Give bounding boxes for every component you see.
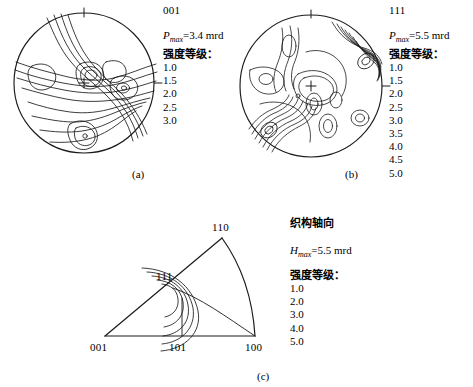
panel-c-hmax-sub: max [298,250,311,259]
panel-c-legend-title: 强度等级： [290,266,345,282]
ipf-label-110: 110 [212,221,229,233]
panel-a-pmax-symbol: P [163,29,170,41]
panel-c-hmax-symbol: H [290,244,298,256]
level-value: 1.0 [163,61,177,74]
ipf-label-111: 111 [156,270,173,282]
level-value: 3.0 [389,114,403,127]
center-cross-b [306,81,316,91]
ipf-label-101: 101 [169,341,186,353]
panel-b-pmax-sub: max [396,35,409,44]
level-value: 3.0 [290,308,304,321]
contour-set-a [15,14,157,150]
panel-a-legend-title: 强度等级： [163,45,218,61]
level-value: 5.0 [389,167,403,180]
ipf-label-100: 100 [245,341,262,353]
level-value: 5.0 [290,335,304,348]
level-value: 2.5 [163,101,177,114]
edge-111-100-arc [173,288,255,336]
level-value: 3.5 [389,127,403,140]
level-value: 2.0 [290,295,304,308]
level-value: 3.0 [163,114,177,127]
panel-a-pmax-sub: max [170,35,183,44]
level-value: 1.5 [163,74,177,87]
ipf-label-001: 001 [90,341,107,353]
inverse-pole-figure-svg [95,228,270,353]
level-value: 2.0 [163,87,177,100]
panel-c-title: 织构轴向 [290,214,334,230]
panel-a-pole-index: 001 [163,4,180,16]
level-value: 4.5 [389,153,403,166]
level-value: 4.0 [389,140,403,153]
panel-b-caption: (b) [345,168,358,180]
panel-b-pmax-value: =5.5 mrd [409,29,449,41]
edge-001-110 [105,238,222,336]
panel-b-pmax: Pmax=5.5 mrd [389,29,450,44]
panel-a-level-list: 1.0 1.5 2.0 2.5 3.0 [163,61,177,127]
panel-c-level-list: 1.0 2.0 3.0 4.0 5.0 [290,282,304,348]
panel-a-pole-figure [10,6,162,162]
panel-b-pmax-symbol: P [389,29,396,41]
panel-c-caption: (c) [257,370,269,382]
pole-figure-a-svg [10,6,162,162]
level-value: 4.0 [290,322,304,335]
edge-110-100 [222,238,255,336]
level-value: 1.0 [290,282,304,295]
level-value: 1.0 [389,61,403,74]
panel-b-pole-figure [236,8,390,166]
panel-a-caption: (a) [132,168,144,180]
panel-a-pmax: Pmax=3.4 mrd [163,29,224,44]
panel-b-pole-index: 111 [389,4,406,16]
panel-c-hmax-value: =5.5 mrd [311,244,351,256]
panel-c-inverse-pole-figure [95,228,270,353]
panel-b-legend-title: 强度等级： [389,45,444,61]
contour-set-b [249,22,382,152]
panel-a-pmax-value: =3.4 mrd [183,29,223,41]
panel-b-level-list: 1.0 1.5 2.0 2.5 3.0 3.5 4.0 4.5 5.0 [389,61,403,180]
level-value: 2.0 [389,87,403,100]
panel-c-hmax: Hmax=5.5 mrd [290,244,352,259]
level-value: 2.5 [389,101,403,114]
pole-figure-b-svg [236,8,390,166]
level-value: 1.5 [389,74,403,87]
